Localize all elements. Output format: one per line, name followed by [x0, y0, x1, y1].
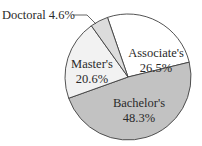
- label-masters-pct: 20.6%: [76, 72, 108, 86]
- pie-chart: Associate's 26.5% Bachelor's 48.3% Maste…: [0, 0, 202, 146]
- label-associates-name: Associate's: [128, 46, 184, 60]
- label-bachelors-pct: 48.3%: [123, 111, 155, 125]
- label-doctoral: Doctoral 4.6%: [2, 8, 75, 22]
- doctoral-leader-line: [73, 15, 96, 24]
- label-masters-name: Master's: [71, 57, 113, 71]
- label-bachelors-name: Bachelor's: [113, 96, 165, 110]
- label-associates-pct: 26.5%: [140, 61, 172, 75]
